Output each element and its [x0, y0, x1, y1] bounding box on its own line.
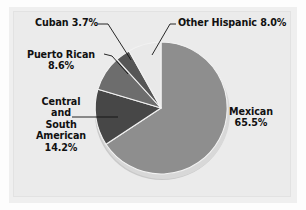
pie-label-mexican: Mexican 65.5% — [216, 106, 286, 129]
pie-slices — [95, 42, 227, 174]
chart-figure: Cuban 3.7% Other Hispanic 8.0% Puerto Ri… — [0, 0, 306, 210]
pie-label-cuban: Cuban 3.7% — [35, 17, 98, 28]
pie-label-central-south-american: Central and South American 14.2% — [18, 96, 104, 153]
pie-label-puerto-rican: Puerto Rican 8.6% — [18, 49, 104, 72]
pie-label-other-hispanic: Other Hispanic 8.0% — [178, 17, 286, 28]
